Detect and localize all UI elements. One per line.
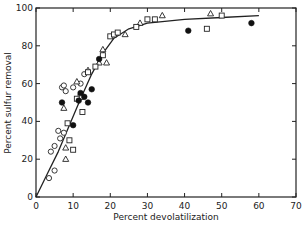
plot-border (36, 8, 296, 197)
open-square-marker (93, 64, 98, 69)
x-tick-label: 60 (253, 201, 265, 211)
open-triangle-marker (61, 105, 67, 110)
open-square-marker (145, 17, 150, 22)
open-square-marker (115, 30, 120, 35)
filled-circle-marker (70, 122, 76, 128)
open-square-marker (152, 17, 157, 22)
filled-circle-marker (96, 56, 102, 62)
open-circle-marker (56, 128, 61, 133)
plot-frame (36, 8, 296, 197)
open-circle-marker (58, 136, 63, 141)
open-square-marker (134, 24, 139, 29)
open-circle-marker (61, 83, 66, 88)
open-triangle-marker (208, 10, 214, 15)
open-square-marker (80, 109, 85, 114)
open-circle-marker (71, 85, 76, 90)
open-circle-marker (61, 130, 66, 135)
open-circle-marker (48, 149, 53, 154)
y-tick-label: 100 (16, 3, 33, 13)
open-square-marker (71, 147, 76, 152)
open-triangle-marker (104, 60, 110, 65)
x-tick-label: 70 (290, 201, 302, 211)
filled-circle-marker (59, 100, 65, 106)
open-circle-marker (52, 168, 57, 173)
filled-circle-marker (81, 94, 87, 100)
filled-circle-marker (76, 98, 82, 104)
open-triangle-marker (63, 145, 69, 150)
fit-line (36, 16, 259, 197)
x-tick-label: 20 (105, 201, 117, 211)
x-tick-label: 0 (33, 201, 39, 211)
x-axis-label: Percent devolatilization (113, 212, 218, 222)
y-tick-label: 60 (22, 79, 34, 89)
open-square-marker (67, 138, 72, 143)
open-square-marker (86, 70, 91, 75)
y-axis-label: Percent sulfur removal (3, 52, 13, 154)
filled-circle-marker (89, 86, 95, 92)
y-tick-label: 20 (22, 154, 34, 164)
open-square-marker (65, 121, 70, 126)
y-tick-label: 40 (22, 116, 34, 126)
x-tick-label: 10 (67, 201, 79, 211)
open-circle-marker (46, 176, 51, 181)
x-tick-label: 30 (142, 201, 154, 211)
fit-curve (36, 16, 259, 197)
open-square-marker (219, 13, 224, 18)
open-square-marker (204, 26, 209, 31)
y-tick-label: 80 (22, 41, 34, 51)
x-axis-ticks: 010203040506070 (33, 8, 302, 211)
filled-circle-marker (185, 28, 191, 34)
y-tick-label: 0 (27, 192, 33, 202)
chart: 010203040506070 020406080100 Percent dev… (0, 0, 304, 228)
open-circle-marker (63, 89, 68, 94)
x-tick-label: 50 (216, 201, 228, 211)
open-triangle-marker (100, 46, 106, 51)
data-points (46, 10, 254, 180)
x-tick-label: 40 (179, 201, 191, 211)
filled-circle-marker (85, 100, 91, 106)
open-triangle-marker (159, 12, 165, 17)
open-triangle-marker (63, 156, 69, 161)
open-circle-marker (52, 143, 57, 148)
y-axis-ticks: 020406080100 (16, 3, 296, 202)
filled-circle-marker (249, 20, 255, 26)
